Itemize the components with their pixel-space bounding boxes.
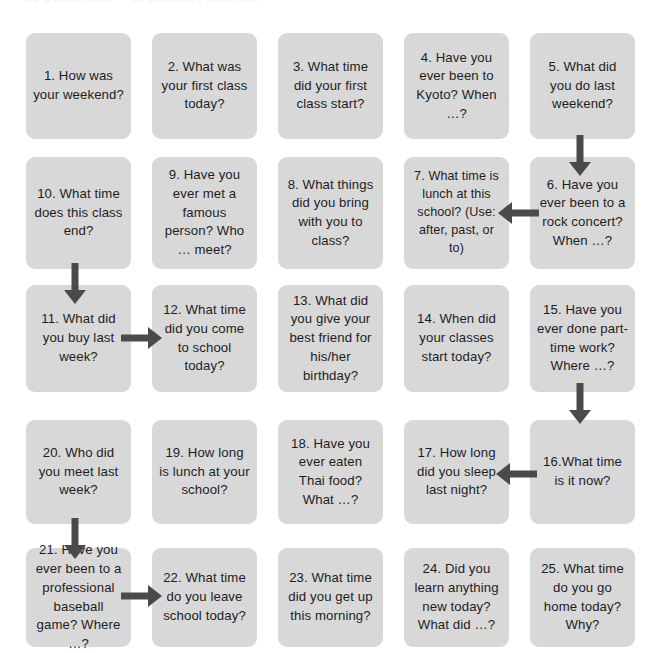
question-card-24[interactable]: 24. Did you learn anything new today? Wh… [404,548,509,647]
question-card-text: 16.What time is it now? [537,453,628,490]
question-card-9[interactable]: 9. Have you ever met a famous person? Wh… [152,157,257,269]
arrow-down-icon-20-to-21 [62,518,88,560]
arrow-right-icon-11-to-12 [121,325,163,351]
question-card-text: 2. What was your first class today? [159,58,250,114]
question-card-19[interactable]: 19. How long is lunch at your school? [152,420,257,524]
arrow-down-icon-10-to-11 [62,263,88,305]
question-card-22[interactable]: 22. What time do you leave school today? [152,548,257,647]
question-card-12[interactable]: 12. What time did you come to school tod… [152,285,257,392]
question-card-18[interactable]: 18. Have you ever eaten Thai food? What … [278,420,383,524]
question-card-25[interactable]: 25. What time do you go home today? Why? [530,548,635,647]
question-card-8[interactable]: 8. What things did you bring with you to… [278,157,383,269]
question-card-text: 13. What did you give your best friend f… [285,292,376,386]
arrow-left-icon-16-to-17 [495,461,537,487]
question-card-text: 6. Have you ever been to a rock concert?… [537,176,628,251]
question-card-15[interactable]: 15. Have you ever done part-time work? W… [530,285,635,392]
question-card-4[interactable]: 4. Have you ever been to Kyoto? When …? [404,33,509,139]
question-card-text: 14. When did your classes start today? [411,310,502,366]
question-card-10[interactable]: 10. What time does this class end? [26,157,131,269]
question-card-text: 15. Have you ever done part-time work? W… [537,301,628,376]
arrow-down-icon-5-to-6 [567,135,593,177]
question-card-text: 19. How long is lunch at your school? [159,444,250,500]
question-card-text: 8. What things did you bring with you to… [285,176,376,251]
question-card-17[interactable]: 17. How long did you sleep last night? [404,420,509,524]
question-card-text: 7. What time is lunch at this school? (U… [411,168,502,257]
question-card-text: 17. How long did you sleep last night? [411,444,502,500]
question-card-2[interactable]: 2. What was your first class today? [152,33,257,139]
arrow-down-icon-15-to-16 [567,383,593,425]
question-card-20[interactable]: 20. Who did you meet last week? [26,420,131,524]
question-card-14[interactable]: 14. When did your classes start today? [404,285,509,392]
question-card-text: 4. Have you ever been to Kyoto? When …? [411,49,502,124]
question-card-text: 23. What time did you get up this mornin… [285,569,376,625]
question-card-5[interactable]: 5. What did you do last weekend? [530,33,635,139]
question-card-3[interactable]: 3. What time did your first class start? [278,33,383,139]
question-card-text: 10. What time does this class end? [33,185,124,241]
arrow-right-icon-21-to-22 [121,583,163,609]
question-card-text: 9. Have you ever met a famous person? Wh… [159,166,250,260]
question-card-1[interactable]: 1. How was your weekend? [26,33,131,139]
question-card-16[interactable]: 16.What time is it now? [530,420,635,524]
question-card-text: 20. Who did you meet last week? [33,444,124,500]
arrow-left-icon-6-to-7 [497,200,539,226]
question-card-13[interactable]: 13. What did you give your best friend f… [278,285,383,392]
question-card-text: 3. What time did your first class start? [285,58,376,114]
question-card-text: 22. What time do you leave school today? [159,569,250,625]
question-card-7[interactable]: 7. What time is lunch at this school? (U… [404,157,509,269]
question-card-text: 1. How was your weekend? [33,67,124,104]
page-title-strip: 25 QUESTIONS — SPEAKING PRACTICE [26,0,326,3]
question-card-board: 25 QUESTIONS — SPEAKING PRACTICE 1. How … [0,0,666,653]
question-card-text: 18. Have you ever eaten Thai food? What … [285,435,376,510]
question-card-text: 24. Did you learn anything new today? Wh… [411,560,502,635]
question-card-text: 25. What time do you go home today? Why? [537,560,628,635]
question-card-text: 11. What did you buy last week? [33,310,124,366]
question-card-21[interactable]: 21. Have you ever been to a professional… [26,548,131,647]
question-card-text: 12. What time did you come to school tod… [159,301,250,376]
question-card-text: 5. What did you do last weekend? [537,58,628,114]
question-card-23[interactable]: 23. What time did you get up this mornin… [278,548,383,647]
